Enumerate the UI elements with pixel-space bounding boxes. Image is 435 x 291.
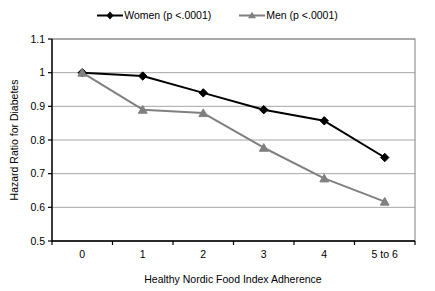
y-tick-label: 1.1 [30,33,45,45]
x-axis-title: Healthy Nordic Food Index Adherence [144,273,322,285]
x-tick-label: 3 [261,248,267,260]
data-point-marker [259,144,268,152]
y-tick-label: 0.8 [30,134,45,146]
women-series-icon [97,10,123,21]
series-line-diamond [82,73,385,158]
x-tick-label: 0 [79,248,85,260]
y-tick-label: 0.9 [30,100,45,112]
men-series-icon [239,10,265,21]
chart-legend: Women (p <.0001) Men (p <.0001) [0,10,435,21]
legend-entry-women[interactable]: Women (p <.0001) [97,10,211,21]
legend-label-men: Men (p <.0001) [265,10,338,21]
x-tick-label: 1 [140,248,146,260]
y-tick-label: 1 [39,66,45,78]
x-axis-tick-labels: 012345 to 6 [79,248,398,260]
series-line-triangle [82,73,385,202]
data-point-marker [199,89,207,97]
y-axis-tick-labels: 0.50.60.70.80.911.1 [30,33,45,247]
plot-area: 0.50.60.70.80.911.1 012345 to 6 Hazard R… [0,0,435,291]
data-point-marker [320,174,329,182]
hazard-ratio-line-chart: Women (p <.0001) Men (p <.0001) 0.50.60.… [0,0,435,291]
gridlines [52,39,415,241]
x-tick-label: 5 to 6 [372,248,398,260]
y-axis-title: Hazard Ratio for Diabetes [8,80,20,201]
series-lines [82,73,385,202]
y-tick-label: 0.7 [30,167,45,179]
x-tick-label: 2 [200,248,206,260]
y-tick-label: 0.6 [30,201,45,213]
legend-entry-men[interactable]: Men (p <.0001) [239,10,338,21]
y-tick-label: 0.5 [30,235,45,247]
x-tick-label: 4 [321,248,327,260]
legend-label-women: Women (p <.0001) [123,10,211,21]
